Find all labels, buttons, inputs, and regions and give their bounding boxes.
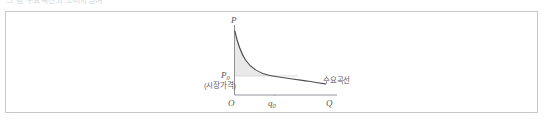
- shaded-surplus-area: [235, 31, 297, 76]
- origin-label: O: [228, 98, 235, 108]
- price-level-label: P0: [221, 70, 230, 81]
- x-axis-label: Q: [326, 98, 333, 108]
- quantity-tick-letter: q: [268, 98, 273, 108]
- quantity-tick-label: q0: [268, 98, 276, 109]
- market-price-annotation: (시장가격): [204, 81, 236, 90]
- y-axis-label: P: [231, 15, 237, 25]
- quantity-tick-subscript: 0: [273, 102, 276, 109]
- figure-frame: P Q O q0 P0 (시장가격) 수요곡선: [5, 11, 538, 113]
- price-label-letter: P: [221, 70, 227, 80]
- figure-caption: 그 림 수요곡선과 소비자잉여: [6, 0, 206, 5]
- demand-curve-annotation: 수요곡선: [323, 76, 350, 85]
- demand-curve-chart: P Q O q0 P0 (시장가격) 수요곡선: [6, 12, 539, 114]
- price-label-subscript: 0: [227, 74, 230, 81]
